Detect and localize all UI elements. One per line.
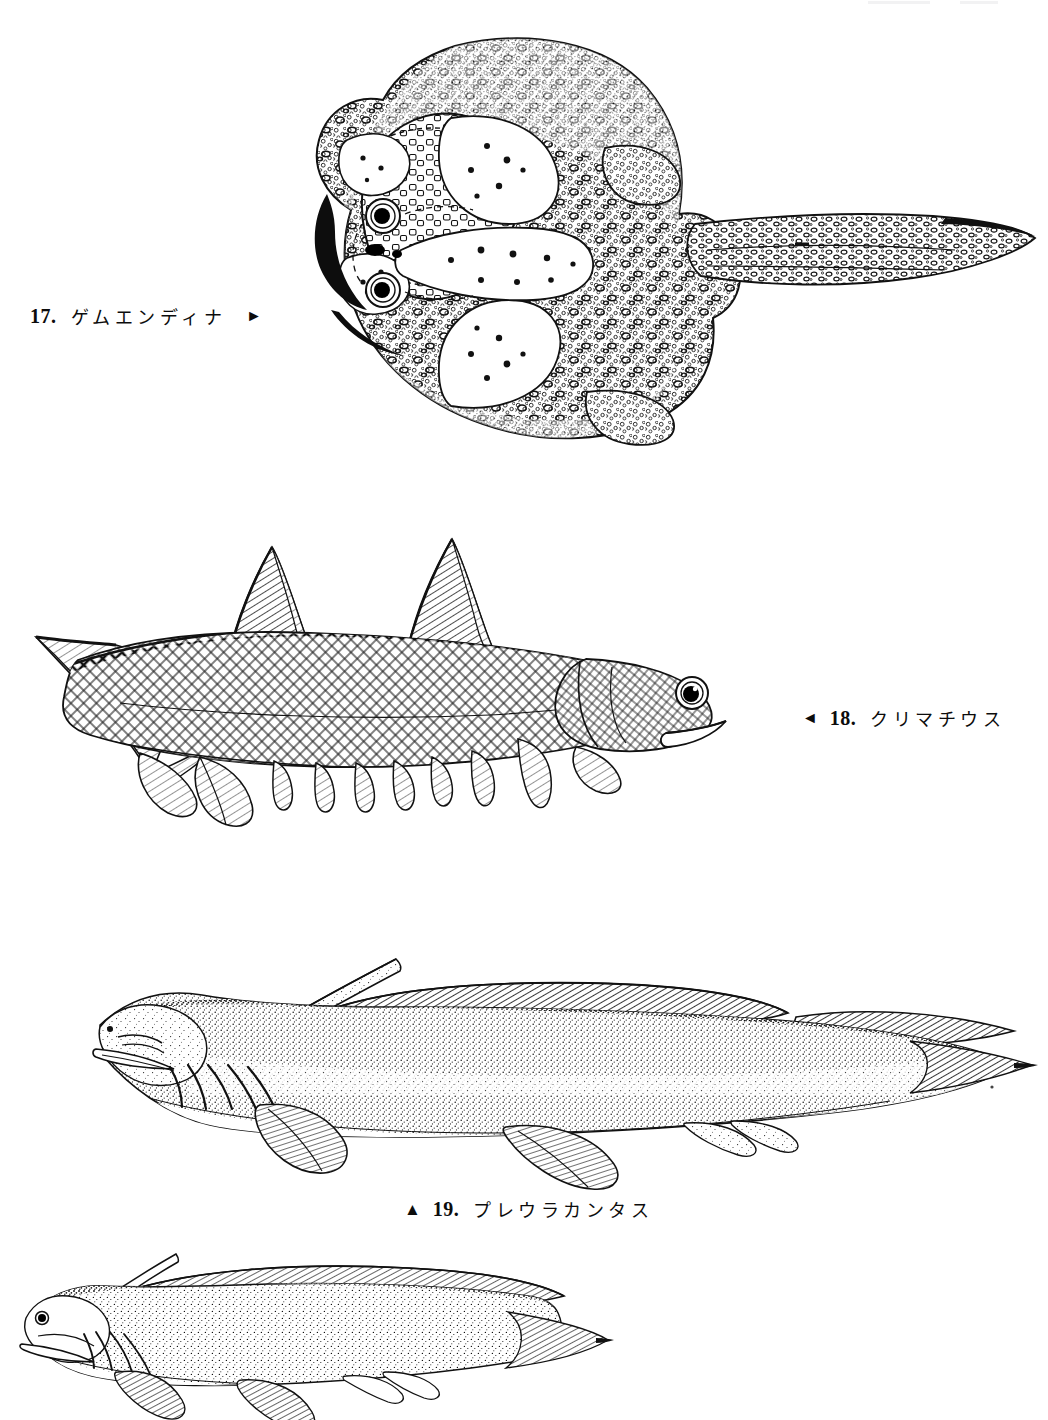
arrow-right-icon: ► xyxy=(246,308,262,324)
pleuracanthus-eye xyxy=(107,1026,113,1032)
caption-figure-17: 17. ゲムエンディナ ► xyxy=(30,303,262,329)
figure-18-climatius-illustration xyxy=(20,525,780,855)
figure-18-name: クリマチウス xyxy=(870,705,1005,731)
figure-19-name: プレウラカンタス xyxy=(473,1196,653,1222)
unlabelled-fish-pelvic-fin xyxy=(237,1380,334,1420)
figure-19-number: 19. xyxy=(433,1198,460,1221)
unlabelled-fish-eye xyxy=(38,1314,46,1322)
gemuendina-eye-lower xyxy=(366,273,400,307)
climatius-pelvic-fin xyxy=(195,757,252,826)
figure-17-number: 17. xyxy=(30,305,57,328)
gemuendina-eye-upper xyxy=(366,199,400,233)
arrow-up-icon: ▲ xyxy=(404,1201,421,1218)
climatius-pectoral-fin xyxy=(573,747,621,793)
caption-figure-18: ◄ 18. クリマチウス xyxy=(802,705,1005,731)
pleuracanthus-claspers xyxy=(684,1121,798,1156)
pleuracanthus-pelvic-fin xyxy=(503,1126,618,1190)
caption-figure-19: ▲ 19. プレウラカンタス xyxy=(404,1196,653,1222)
figure-unlabelled-illustration xyxy=(8,1240,788,1420)
climatius-head xyxy=(555,659,726,751)
scan-artifact xyxy=(868,1,930,4)
gemuendina-tail xyxy=(687,214,1035,285)
figure-17-gemuendina-illustration xyxy=(255,18,1035,448)
unlabelled-fish-head xyxy=(20,1296,110,1363)
unlabelled-fish-claspers xyxy=(343,1372,439,1403)
figure-19-pleuracanthus-illustration xyxy=(70,945,1045,1180)
arrow-left-icon: ◄ xyxy=(802,710,818,726)
scan-artifact xyxy=(960,1,998,4)
ink-speck xyxy=(990,1085,993,1088)
figure-17-name: ゲムエンディナ xyxy=(71,303,227,329)
figure-18-number: 18. xyxy=(830,707,857,730)
